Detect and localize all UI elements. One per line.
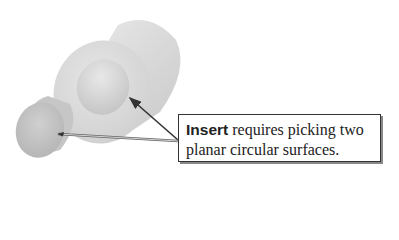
callout-line-2: planar circular surfaces. [186, 140, 374, 160]
callout-box: Insert requires picking two planar circu… [178, 114, 381, 162]
small-cylinder [10, 96, 74, 163]
callout-keyword: Insert [186, 121, 228, 138]
callout-line-1: Insert requires picking two [186, 120, 374, 140]
